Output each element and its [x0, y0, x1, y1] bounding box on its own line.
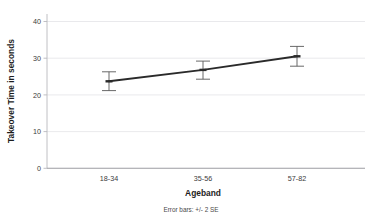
xtick-label-35-56: 35-56	[194, 174, 212, 183]
chart-container: 40 30 20 10 0 Takeover Time in seconds	[0, 0, 375, 220]
ytick-label-20: 20	[33, 91, 41, 100]
y-tick-marks	[44, 22, 48, 169]
data-point-marker-1	[106, 80, 113, 82]
ytick-label-10: 10	[33, 127, 41, 136]
data-point-marker-2	[200, 69, 207, 71]
xtick-label-57-82: 57-82	[288, 174, 306, 183]
ytick-label-40: 40	[33, 17, 41, 26]
ytick-label-30: 30	[33, 54, 41, 63]
xtick-label-18-34: 18-34	[100, 174, 118, 183]
plot-area-background	[47, 14, 365, 168]
x-axis-title: Ageband	[185, 188, 221, 198]
ytick-label-0: 0	[37, 164, 41, 173]
error-bars-caption: Error bars: +/- 2 SE	[163, 206, 218, 213]
y-axis-title: Takeover Time in seconds	[6, 39, 16, 143]
error-bar-line-chart: 40 30 20 10 0 Takeover Time in seconds	[0, 0, 375, 220]
data-point-marker-3	[294, 55, 301, 57]
